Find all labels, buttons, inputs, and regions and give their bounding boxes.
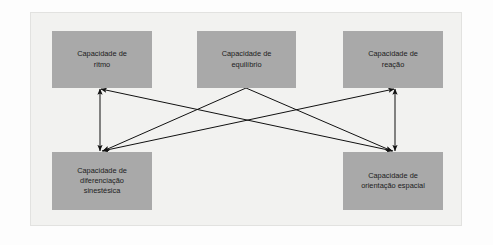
node-equilibrio-label: Capacidade deequilíbrio xyxy=(199,49,294,69)
node-equilibrio[interactable]: Capacidade deequilíbrio xyxy=(197,31,296,88)
diagram-canvas: Capacidade deritmo Capacidade deequilíbr… xyxy=(0,0,493,245)
node-diferenciacao-label: Capacidade dediferenciaçãosinestésica xyxy=(54,166,150,197)
node-orientacao-label: Capacidade deorientação espacial xyxy=(345,171,441,191)
node-ritmo-label: Capacidade deritmo xyxy=(54,49,150,69)
node-orientacao[interactable]: Capacidade deorientação espacial xyxy=(343,152,443,210)
node-reacao-label: Capacidade dereação xyxy=(345,49,441,69)
node-ritmo[interactable]: Capacidade deritmo xyxy=(52,31,152,88)
node-diferenciacao[interactable]: Capacidade dediferenciaçãosinestésica xyxy=(52,152,152,210)
node-reacao[interactable]: Capacidade dereação xyxy=(343,31,443,88)
